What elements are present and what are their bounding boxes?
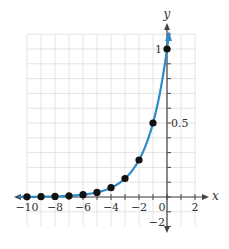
- y-tick-label: 1: [155, 43, 162, 56]
- data-point: [93, 189, 100, 196]
- x-tick-label: −8: [47, 201, 63, 214]
- data-point: [121, 175, 128, 182]
- data-point: [65, 192, 72, 199]
- y-axis-label: y: [163, 7, 171, 21]
- x-tick-label: −4: [103, 201, 119, 214]
- x-tick-label: −6: [75, 201, 91, 214]
- data-point: [107, 184, 114, 191]
- curve: [19, 31, 172, 200]
- data-point: [135, 156, 142, 163]
- curve-arrow-icon: [165, 31, 172, 41]
- y-tick-label: 0.5: [171, 117, 189, 130]
- data-point: [23, 193, 30, 200]
- y-axis-arrow-icon: [164, 23, 170, 30]
- x-tick-label: −10: [15, 201, 38, 214]
- data-point: [163, 45, 170, 52]
- data-point: [79, 191, 86, 198]
- data-point: [149, 119, 156, 126]
- x-axis-arrow-icon: [202, 194, 209, 200]
- x-tick-label: 2: [192, 201, 199, 214]
- y-tick-label: −2: [149, 216, 165, 229]
- data-point: [51, 193, 58, 200]
- data-point: [37, 193, 44, 200]
- x-axis-label: x: [212, 189, 219, 203]
- exponential-chart: −10−8−6−4−20210.5−2xy: [0, 0, 229, 249]
- x-tick-label: −2: [131, 201, 147, 214]
- x-tick-label: 0: [159, 201, 166, 214]
